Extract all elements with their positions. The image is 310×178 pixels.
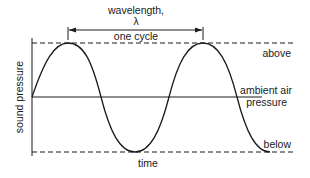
ambient-air-label: ambient air bbox=[240, 84, 292, 96]
y-axis-label: sound pressure bbox=[13, 61, 25, 134]
arrow-head-left-icon bbox=[69, 28, 76, 33]
above-label: above bbox=[262, 47, 291, 59]
pressure-label: pressure bbox=[246, 96, 287, 108]
below-label: below bbox=[264, 138, 292, 150]
x-axis-label: time bbox=[138, 157, 158, 169]
one-cycle-label: one cycle bbox=[114, 30, 159, 42]
arrow-head-right-icon bbox=[195, 28, 202, 33]
sound-wave-diagram: wavelength, λ one cycle above ambient ai… bbox=[0, 0, 310, 178]
lambda-label: λ bbox=[133, 15, 139, 27]
